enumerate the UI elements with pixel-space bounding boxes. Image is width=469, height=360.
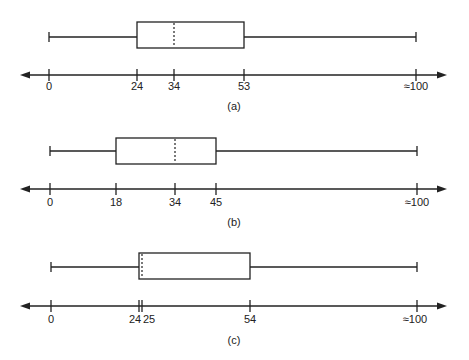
plot-caption: (a) xyxy=(227,100,240,112)
tick-label: 24 xyxy=(131,80,143,92)
number-line-axis: 0243453≈100 xyxy=(20,69,447,92)
tick-label: 54 xyxy=(244,313,256,325)
tick-label: 0 xyxy=(48,313,54,325)
tick-label: 53 xyxy=(238,80,250,92)
number-line-axis: 0242554≈100 xyxy=(20,300,447,325)
number-line-axis: 0183445≈100 xyxy=(20,183,447,208)
tick-label: ≈100 xyxy=(403,313,427,325)
plot-caption: (c) xyxy=(228,334,241,346)
tick-label: ≈100 xyxy=(405,196,429,208)
tick-label: 34 xyxy=(168,80,180,92)
box-plot-b: 0183445≈100(b) xyxy=(20,138,447,228)
tick-label: ≈100 xyxy=(404,80,428,92)
plot-caption: (b) xyxy=(227,216,240,228)
right-arrow-icon xyxy=(437,186,447,193)
tick-label: 45 xyxy=(210,196,222,208)
right-arrow-icon xyxy=(437,303,447,310)
tick-label: 25 xyxy=(143,313,155,325)
tick-label: 0 xyxy=(46,80,52,92)
iqr-box xyxy=(137,22,244,48)
tick-label: 0 xyxy=(47,196,53,208)
box-plot-figure: 0243453≈100(a)0183445≈100(b)0242554≈100(… xyxy=(0,0,469,360)
box-plot-c: 0242554≈100(c) xyxy=(20,253,447,346)
iqr-box xyxy=(116,138,216,164)
tick-label: 34 xyxy=(169,196,181,208)
iqr-box xyxy=(139,253,250,279)
right-arrow-icon xyxy=(437,72,447,79)
left-arrow-icon xyxy=(20,186,30,193)
left-arrow-icon xyxy=(20,72,30,79)
left-arrow-icon xyxy=(20,303,30,310)
tick-label: 24 xyxy=(129,313,141,325)
box-plot-a: 0243453≈100(a) xyxy=(20,22,447,112)
tick-label: 18 xyxy=(110,196,122,208)
